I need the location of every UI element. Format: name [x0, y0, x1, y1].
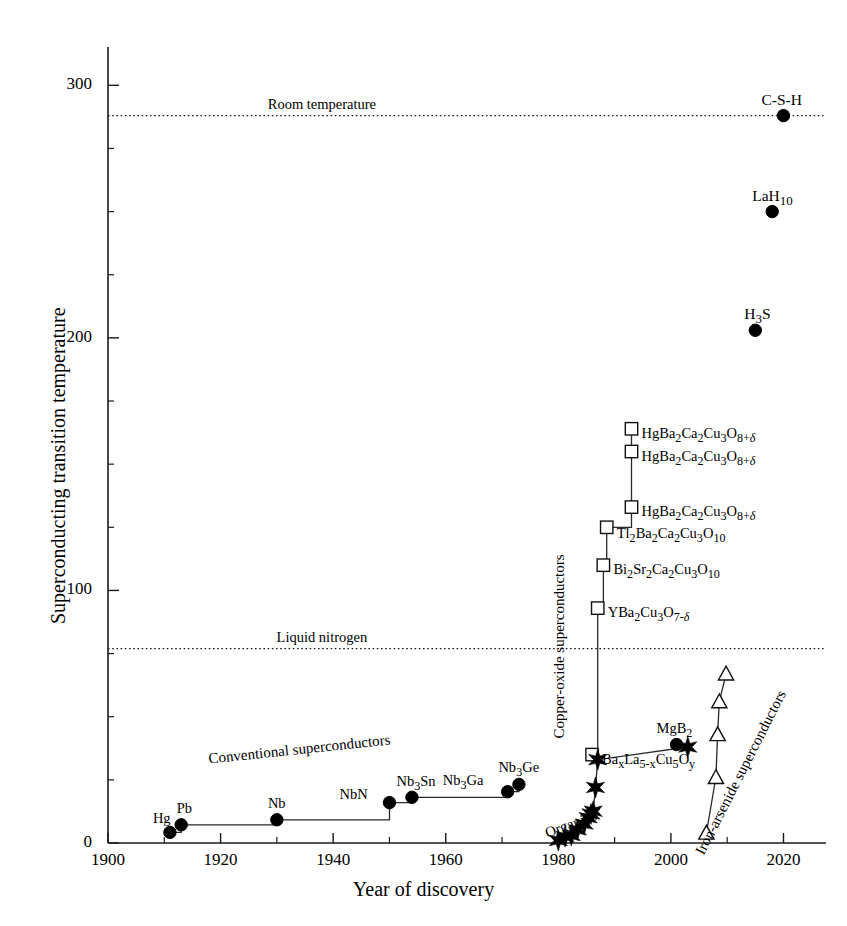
- series-mgb2: [670, 738, 682, 750]
- marker-circle: [406, 791, 418, 803]
- marker-square: [592, 602, 604, 614]
- series-organics: [549, 737, 697, 851]
- marker-circle: [777, 109, 789, 121]
- chart-figure: 01002003001900192019401960198020002020Ye…: [0, 0, 847, 926]
- marker-triangle: [708, 770, 723, 784]
- marker-square: [625, 423, 637, 435]
- marker-circle: [383, 796, 395, 808]
- marker-circle: [164, 826, 176, 838]
- marker-triangle: [718, 666, 733, 680]
- marker-circle: [766, 205, 778, 217]
- marker-circle: [271, 814, 283, 826]
- superconductor-timeline-chart: [0, 0, 847, 926]
- marker-square: [625, 445, 637, 457]
- reference-lines-layer: [108, 116, 826, 649]
- series-connector-iron-arsenide: [706, 674, 726, 833]
- marker-triangle: [712, 694, 727, 708]
- marker-triangle: [699, 825, 714, 839]
- marker-circle: [513, 778, 525, 790]
- marker-circle: [175, 819, 187, 831]
- series-conventional: [164, 778, 525, 838]
- marker-triangle: [710, 727, 725, 741]
- marker-square: [625, 501, 637, 513]
- series-connector-cuprates: [592, 429, 631, 755]
- marker-circle: [501, 786, 513, 798]
- series-cuprates: [586, 423, 638, 761]
- series-hydrides: [749, 109, 790, 336]
- series-layer: [164, 109, 790, 851]
- marker-star: [586, 777, 604, 798]
- series-connector-conventional: [170, 784, 519, 832]
- marker-square: [601, 521, 613, 533]
- marker-circle: [670, 738, 682, 750]
- marker-circle: [749, 324, 761, 336]
- series-iron-arsenide: [699, 666, 734, 839]
- marker-square: [597, 559, 609, 571]
